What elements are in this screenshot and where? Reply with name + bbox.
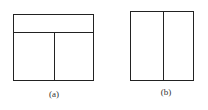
figure-b-label: (b) xyxy=(151,87,181,97)
figure-a-label: (a) xyxy=(39,89,69,99)
figure-a-vertical-divider xyxy=(54,32,55,81)
figure-b-vertical-divider xyxy=(163,11,164,81)
figure-b-outline xyxy=(130,11,194,81)
